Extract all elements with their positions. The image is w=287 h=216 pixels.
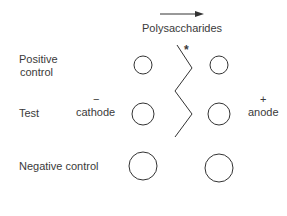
well-positive-anode <box>210 56 228 74</box>
anode-sign: + <box>260 93 266 106</box>
well-test-cathode <box>132 103 154 125</box>
row-label-positive-line1: Positive <box>19 53 58 66</box>
row-label-negative: Negative control <box>19 160 99 173</box>
asterisk-marker: * <box>184 44 189 57</box>
well-negative-cathode <box>129 152 157 180</box>
cathode-sign: − <box>93 93 99 106</box>
direction-arrow-head <box>195 11 204 17</box>
anode-label: anode <box>248 106 279 119</box>
cathode-label: cathode <box>76 106 115 119</box>
well-negative-anode <box>205 154 233 182</box>
row-label-test: Test <box>19 107 39 120</box>
row-label-positive-line2: control <box>20 66 53 79</box>
well-test-anode <box>208 103 230 125</box>
zigzag-separator <box>175 45 192 137</box>
polysaccharides-label: Polysaccharides <box>142 22 222 35</box>
well-positive-cathode <box>134 56 152 74</box>
